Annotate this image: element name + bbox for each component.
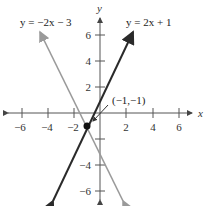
label-y-2x-plus1: y = 2x + 1 — [126, 16, 171, 28]
svg-text:2: 2 — [86, 81, 92, 93]
svg-text:−6: −6 — [79, 185, 91, 197]
label-y-neg2x-minus3: y = −2x − 3 — [20, 16, 72, 28]
svg-text:−4: −4 — [41, 121, 53, 133]
line-graph: x y −6 −4 −2 2 4 6 6 4 2 −4 −6 ( — [0, 0, 210, 206]
svg-text:2: 2 — [123, 121, 129, 133]
svg-text:4: 4 — [86, 55, 92, 67]
intersection-label: (−1,−1) — [112, 94, 146, 107]
intersection-point — [84, 123, 91, 130]
x-axis-label: x — [197, 107, 203, 119]
x-tick-labels: −6 −4 −2 2 4 6 — [14, 121, 182, 133]
svg-text:−2: −2 — [67, 121, 79, 133]
y-axis-label: y — [96, 2, 102, 14]
svg-text:−6: −6 — [14, 121, 26, 133]
line-y-neg2x-minus3 — [40, 32, 123, 201]
svg-text:6: 6 — [86, 29, 92, 41]
svg-text:4: 4 — [150, 121, 156, 133]
svg-text:−4: −4 — [79, 159, 91, 171]
line-y-2x-plus1 — [53, 32, 133, 201]
svg-text:6: 6 — [176, 121, 182, 133]
